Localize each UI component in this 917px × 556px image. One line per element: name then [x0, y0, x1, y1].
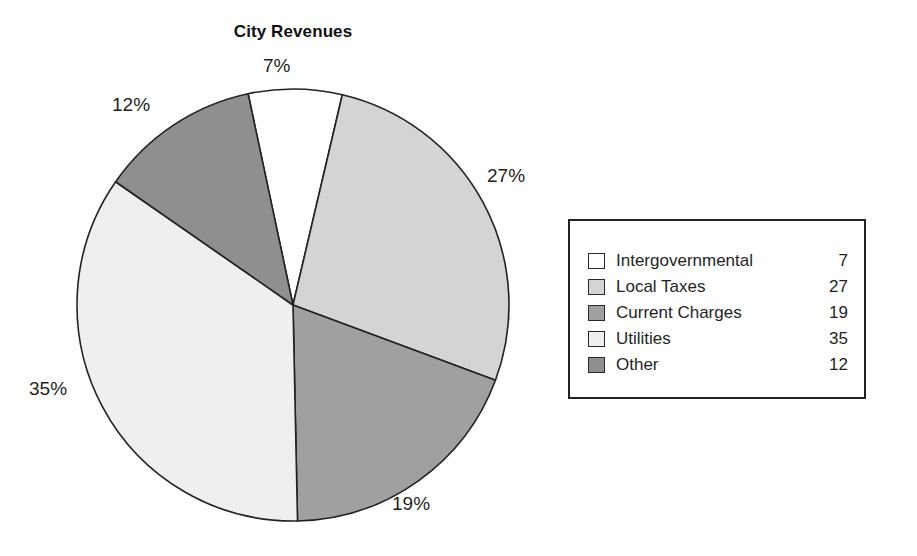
slice-label-current-charges: 19% — [392, 493, 430, 515]
slice-label-utilities: 35% — [29, 378, 67, 400]
legend-item-label: Other — [616, 355, 822, 375]
legend-swatch-icon — [588, 357, 605, 373]
legend-item-label: Utilities — [616, 329, 822, 349]
legend-item-label: Intergovernmental — [616, 251, 822, 271]
legend-item: Current Charges19 — [588, 300, 848, 326]
legend-item: Utilities35 — [588, 326, 848, 352]
legend-swatch-icon — [588, 279, 605, 295]
legend-item-value: 35 — [822, 329, 848, 349]
slice-label-intergovernmental: 7% — [263, 55, 290, 77]
legend-item: Intergovernmental7 — [588, 248, 848, 274]
legend-swatch-icon — [588, 305, 605, 321]
pie-graphic — [60, 60, 530, 530]
legend-item: Local Taxes27 — [588, 274, 848, 300]
legend-item-value: 7 — [822, 251, 848, 271]
slice-label-other: 12% — [112, 94, 150, 116]
legend-swatch-icon — [588, 331, 605, 347]
legend-item-label: Current Charges — [616, 303, 822, 323]
chart-title: City Revenues — [0, 22, 586, 42]
legend-item-value: 12 — [822, 355, 848, 375]
legend-item-value: 27 — [822, 277, 848, 297]
legend-item-value: 19 — [822, 303, 848, 323]
slice-label-local-taxes: 27% — [487, 165, 525, 187]
legend: Intergovernmental7Local Taxes27Current C… — [568, 219, 866, 399]
legend-item-label: Local Taxes — [616, 277, 822, 297]
pie-slice-group — [77, 89, 509, 521]
pie-chart-figure: City Revenues 7% 27% 19% 35% 12% Intergo… — [0, 0, 917, 556]
legend-list: Intergovernmental7Local Taxes27Current C… — [588, 248, 848, 378]
legend-swatch-icon — [588, 253, 605, 269]
legend-item: Other12 — [588, 352, 848, 378]
